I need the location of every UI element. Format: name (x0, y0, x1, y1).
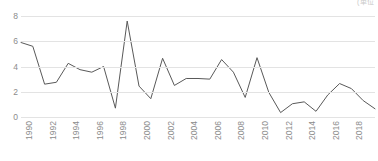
x-tick-label: 2010 (261, 121, 270, 140)
x-tick-label: 2012 (285, 121, 294, 140)
x-tick-label: 1992 (49, 121, 58, 140)
gridline (21, 92, 375, 93)
x-tick-label: 2018 (355, 121, 364, 140)
x-tick-label: 2014 (308, 121, 317, 140)
x-tick-label: 2004 (190, 121, 199, 140)
x-tick-label: 1998 (119, 121, 128, 140)
gridline (21, 16, 375, 17)
x-tick-label: 2002 (167, 121, 176, 140)
y-tick-label: 6 (2, 37, 18, 46)
line-chart: (単位 02468 199019921994199619982000200220… (0, 0, 378, 161)
plot-area (21, 16, 375, 117)
x-tick-label: 2016 (332, 121, 341, 140)
gridline (21, 41, 375, 42)
y-tick-label: 4 (2, 62, 18, 71)
y-tick-label: 8 (2, 12, 18, 21)
unit-caption: (単位 (357, 0, 374, 6)
x-tick-label: 2006 (214, 121, 223, 140)
y-tick-label: 0 (2, 113, 18, 122)
x-tick-label: 2008 (237, 121, 246, 140)
x-tick-label: 1996 (96, 121, 105, 140)
x-tick-label: 1994 (72, 121, 81, 140)
x-tick-label: 2000 (143, 121, 152, 140)
x-axis: 1990199219941996199820002002200420062008… (21, 118, 375, 161)
gridline (21, 67, 375, 68)
y-axis: 02468 (0, 16, 18, 117)
y-tick-label: 2 (2, 88, 18, 97)
x-tick-label: 1990 (25, 121, 34, 140)
